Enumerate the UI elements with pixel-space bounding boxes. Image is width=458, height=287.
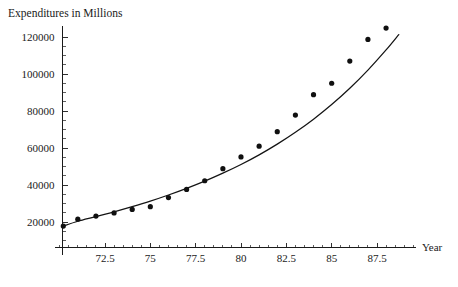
data-point: [130, 207, 135, 212]
data-point: [220, 166, 225, 171]
data-point: [166, 195, 171, 200]
y-tick-label: 120000: [22, 31, 56, 43]
x-tick-label: 75: [145, 252, 157, 264]
chart-container: Expenditures in Millions 200004000060000…: [0, 0, 458, 287]
fitted-curve: [62, 35, 398, 227]
x-tick-label: 85: [326, 252, 338, 264]
y-tick-label: 60000: [27, 142, 55, 154]
data-point: [61, 223, 66, 228]
y-tick-label: 80000: [27, 105, 55, 117]
x-tick-label: 87.5: [367, 252, 387, 264]
data-point: [383, 26, 388, 31]
y-tick-labels: 20000400006000080000100000120000: [22, 31, 56, 228]
data-point: [257, 144, 262, 149]
x-axis-title: Year: [422, 241, 443, 253]
data-point: [293, 112, 298, 117]
x-tick-label: 82.5: [277, 252, 297, 264]
y-axis: 20000400006000080000100000120000: [22, 26, 68, 255]
y-tick-label: 20000: [27, 216, 55, 228]
data-point: [238, 154, 243, 159]
x-tick-label: 77.5: [186, 252, 206, 264]
data-point: [75, 217, 80, 222]
data-point: [202, 178, 207, 183]
data-point: [311, 92, 316, 97]
expenditures-scatter-chart: Expenditures in Millions 200004000060000…: [0, 0, 458, 287]
y-tick-label: 40000: [27, 179, 55, 191]
data-point-group: [61, 26, 389, 229]
data-point: [329, 81, 334, 86]
x-tick-label: 80: [236, 252, 248, 264]
x-tick-labels: 72.57577.58082.58587.5: [95, 252, 387, 264]
chart-title: Expenditures in Millions: [8, 7, 123, 20]
data-point: [275, 129, 280, 134]
x-tick-marks: [60, 243, 414, 248]
data-point: [184, 187, 189, 192]
data-point: [365, 37, 370, 42]
y-tick-marks: [63, 37, 68, 241]
x-tick-label: 72.5: [95, 252, 115, 264]
x-axis: 72.57577.58082.58587.5 Year: [55, 241, 443, 264]
data-point: [93, 213, 98, 218]
data-point: [347, 58, 352, 63]
data-point: [111, 210, 116, 215]
data-point: [148, 204, 153, 209]
y-tick-label: 100000: [22, 68, 56, 80]
